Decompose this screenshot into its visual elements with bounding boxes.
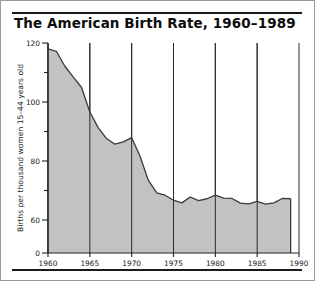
x-tick-label-1975: 1975 <box>164 259 183 268</box>
x-tick-label-1960: 1960 <box>39 259 58 268</box>
x-tick-label-1965: 1965 <box>80 259 99 268</box>
x-tick-label-1980: 1980 <box>206 259 225 268</box>
x-tick-label-1990: 1990 <box>290 259 309 268</box>
y-tick-label-80: 80 <box>31 157 41 166</box>
y-tick-label-100: 100 <box>26 98 40 107</box>
y-tick-label-120: 120 <box>26 39 40 48</box>
x-tick-label-1985: 1985 <box>248 259 267 268</box>
x-tick-label-1970: 1970 <box>122 259 141 268</box>
area-fill <box>48 49 291 253</box>
y-tick-label-60: 60 <box>31 216 41 225</box>
plot-area: 060801001201960196519701975198019851990B… <box>1 1 315 281</box>
y-tick-label-0: 0 <box>35 249 40 258</box>
figure-panel: The American Birth Rate, 1960–1989 06080… <box>0 0 315 281</box>
birth-rate-area-chart: 060801001201960196519701975198019851990B… <box>1 1 315 281</box>
y-axis-label: Births per thousand women 15–44 years ol… <box>16 64 25 232</box>
